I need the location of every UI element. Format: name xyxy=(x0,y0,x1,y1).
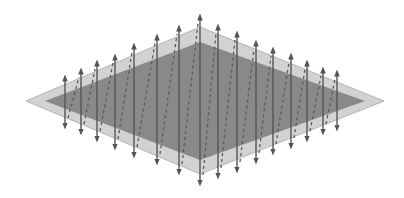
isometric-arrow-diagram xyxy=(0,0,404,198)
inner-plane xyxy=(45,42,365,160)
